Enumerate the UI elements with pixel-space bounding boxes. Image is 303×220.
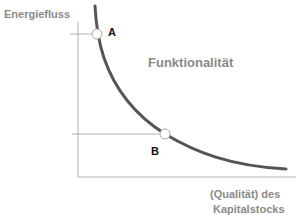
x-axis-label-line2: Kapitalstocks (213, 203, 285, 215)
x-axis-label-line1: (Qualität) des (210, 188, 280, 200)
diagram-canvas (0, 0, 303, 220)
point-a-label: A (108, 26, 116, 38)
point-b-label: B (151, 145, 159, 157)
functionality-curve (95, 6, 286, 169)
point-b-marker (160, 129, 170, 139)
y-axis-label: Energiefluss (4, 8, 70, 20)
curve-label: Funktionalität (148, 55, 233, 70)
point-a-marker (92, 29, 102, 39)
